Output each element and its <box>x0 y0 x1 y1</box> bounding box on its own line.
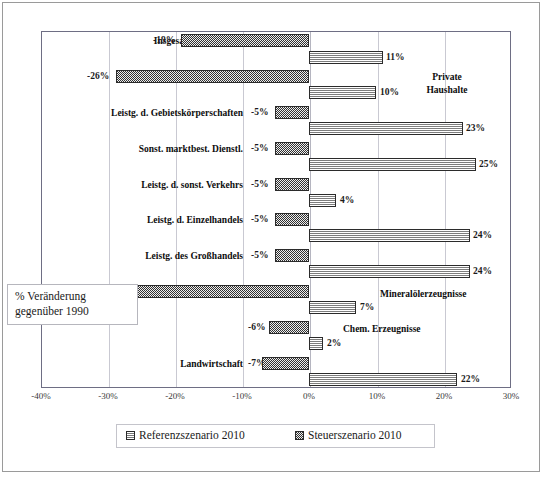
annotation-mineraloelerzeugnisse: Mineralölerzeugnisse <box>380 288 510 300</box>
value-label-tax-8: -6% <box>248 321 265 334</box>
legend-item-steuerszenario[interactable]: Steuerszenario 2010 <box>295 429 402 441</box>
xtick-10: 10% <box>357 391 397 401</box>
category-label-grosshandels: Leistg. des Großhandels <box>63 250 243 262</box>
category-label-sonst-verkehrs: Leistg. d. sonst. Verkehrs <box>63 179 243 191</box>
bar-referenzszenario-4 <box>309 194 336 207</box>
bar-steuerszenario-8 <box>269 321 309 334</box>
bar-referenzszenario-2 <box>309 122 463 135</box>
legend-label-referenzszenario: Referenzszenario 2010 <box>139 429 245 441</box>
value-label-tax-0: -19% <box>153 34 175 47</box>
value-label-ref-6: 24% <box>473 265 492 278</box>
value-label-ref-9: 22% <box>461 373 480 386</box>
value-label-tax-1: -26% <box>87 70 109 83</box>
annotation-private-haushalte-line2: Haushalte <box>403 84 491 97</box>
note-line-1: % Veränderung <box>15 289 131 304</box>
value-label-ref-8: 2% <box>327 337 341 350</box>
value-label-ref-7: 7% <box>360 301 374 314</box>
image-frame: Insgesamt -19% 11% -26% 10% Private Haus… <box>2 2 540 472</box>
bar-steuerszenario-0 <box>181 34 309 47</box>
value-label-ref-5: 24% <box>473 229 492 242</box>
category-label-insgesamt: Insgesamt <box>63 35 195 47</box>
category-label-gebietskoerperschaften: Leistg. d. Gebietskörperschaften <box>63 107 243 119</box>
chart-legend: Referenzszenario 2010 Steuerszenario 201… <box>116 424 435 448</box>
bar-referenzszenario-7 <box>309 301 356 314</box>
gridline--20 <box>176 32 177 387</box>
bar-referenzszenario-5 <box>309 229 470 242</box>
bar-referenzszenario-1 <box>309 86 376 99</box>
bar-steuerszenario-9 <box>262 357 309 370</box>
value-label-ref-3: 25% <box>479 158 498 171</box>
bar-referenzszenario-0 <box>309 51 383 64</box>
legend-swatch-steuerszenario-icon <box>295 431 304 440</box>
xtick--30: -30% <box>88 391 128 401</box>
bar-steuerszenario-3 <box>275 142 309 155</box>
category-label-sonst-marktbest-dienstl: Sonst. marktbest. Dienstl. <box>63 143 243 155</box>
value-label-tax-5: -5% <box>251 213 268 226</box>
value-label-tax-2: -5% <box>251 106 268 119</box>
bar-steuerszenario-4 <box>275 178 309 191</box>
xtick--10: -10% <box>222 391 262 401</box>
xtick--20: -20% <box>155 391 195 401</box>
bar-steuerszenario-6 <box>275 249 309 262</box>
value-label-tax-4: -5% <box>251 178 268 191</box>
legend-label-steuerszenario: Steuerszenario 2010 <box>308 429 402 441</box>
bar-referenzszenario-8 <box>309 337 323 350</box>
bar-referenzszenario-3 <box>309 158 476 171</box>
legend-swatch-referenzszenario-icon <box>126 431 135 440</box>
bar-steuerszenario-2 <box>275 106 309 119</box>
category-label-landwirtschaft: Landwirtschaft <box>123 358 243 370</box>
xtick-20: 20% <box>424 391 464 401</box>
bar-steuerszenario-1 <box>116 70 309 83</box>
gridline--30 <box>109 32 110 387</box>
xtick-0: 0% <box>289 391 329 401</box>
annotation-chem-erzeugnisse: Chem. Erzeugnisse <box>343 323 463 335</box>
bar-referenzszenario-6 <box>309 265 470 278</box>
note-box: % Veränderung gegenüber 1990 <box>7 284 138 325</box>
value-label-ref-4: 4% <box>340 194 354 207</box>
annotation-private-haushalte-line1: Private <box>403 71 491 84</box>
note-line-2: gegenüber 1990 <box>15 304 131 319</box>
bar-steuerszenario-5 <box>275 213 309 226</box>
xtick--40: -40% <box>21 391 61 401</box>
value-label-ref-2: 23% <box>466 122 485 135</box>
bar-referenzszenario-9 <box>309 373 457 386</box>
value-label-tax-6: -5% <box>251 249 268 262</box>
category-label-einzelhandels: Leistg. d. Einzelhandels <box>63 214 243 226</box>
legend-item-referenzszenario[interactable]: Referenzszenario 2010 <box>126 429 245 441</box>
value-label-tax-3: -5% <box>251 142 268 155</box>
value-label-ref-1: 10% <box>380 86 399 99</box>
value-label-ref-0: 11% <box>386 51 404 64</box>
gridline--10 <box>243 32 244 387</box>
xtick-30: 30% <box>491 391 531 401</box>
